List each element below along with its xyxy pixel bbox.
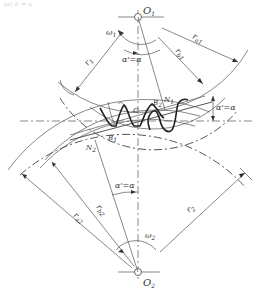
svg-text:O1: O1: [143, 5, 155, 17]
svg-text:B1: B1: [107, 134, 117, 143]
gear2-pitch-circle: [20, 134, 246, 188]
pitch-point-label: C: [133, 107, 139, 115]
n1-label-sub: 1: [170, 98, 174, 105]
o2-label: O: [143, 277, 151, 288]
svg-text:ra2: ra2: [71, 211, 86, 226]
svg-text:rb2: rb2: [94, 203, 109, 218]
omega1-arrow: [118, 30, 124, 36]
gear1-tooth-tip: [118, 103, 124, 105]
omega1-label-sub: 1: [113, 31, 117, 38]
omega1-arc: [118, 30, 156, 45]
r1-dimension-line: [75, 35, 120, 92]
svg-text:ω1: ω1: [106, 28, 116, 38]
svg-text:ra1: ra1: [191, 32, 205, 46]
line-of-action-upper: [70, 96, 205, 135]
r2-dimension-line: [160, 173, 245, 252]
r2-arrow: [239, 173, 245, 178]
gear-mesh-diagram: (a) a' = a: [0, 0, 258, 292]
omega2-label-sub: 2: [151, 234, 156, 241]
svg-text:ω2: ω2: [145, 231, 156, 241]
svg-text:r2: r2: [184, 203, 197, 216]
omega2-arc: [116, 241, 156, 250]
svg-text:r1: r1: [82, 56, 95, 68]
o2-label-sub: 2: [150, 282, 155, 289]
b2-label-sub: 2: [157, 101, 162, 108]
ra1-label-sub: a1: [194, 36, 204, 45]
svg-text:rb1: rb1: [173, 46, 188, 61]
svg-text:B2: B2: [152, 99, 162, 108]
o1-label-sub: 1: [151, 10, 155, 17]
gear1-tooth-profile: [100, 104, 164, 126]
svg-text:N2: N2: [85, 144, 96, 153]
b1-label-sub: 1: [113, 136, 117, 143]
n2-label-sub: 2: [91, 146, 96, 153]
alpha-top-label: α'=α: [122, 55, 142, 64]
alpha-bottom-label: α'=α: [115, 181, 135, 190]
alpha-right-arrow-top: [211, 96, 215, 101]
o1-label: O: [143, 5, 151, 16]
gear2-base-circle: [40, 119, 195, 168]
svg-text:N1: N1: [163, 96, 174, 105]
header-fragment: (a) a' = a: [4, 0, 32, 7]
ra2-arrow: [22, 174, 27, 179]
alpha-bottom-arrow: [131, 190, 136, 194]
svg-text:O2: O2: [143, 277, 155, 289]
o1-to-n1-line: [138, 17, 165, 110]
alpha-right-arrow-bottom: [211, 116, 215, 121]
alpha-right-label: α'=α: [216, 103, 236, 112]
